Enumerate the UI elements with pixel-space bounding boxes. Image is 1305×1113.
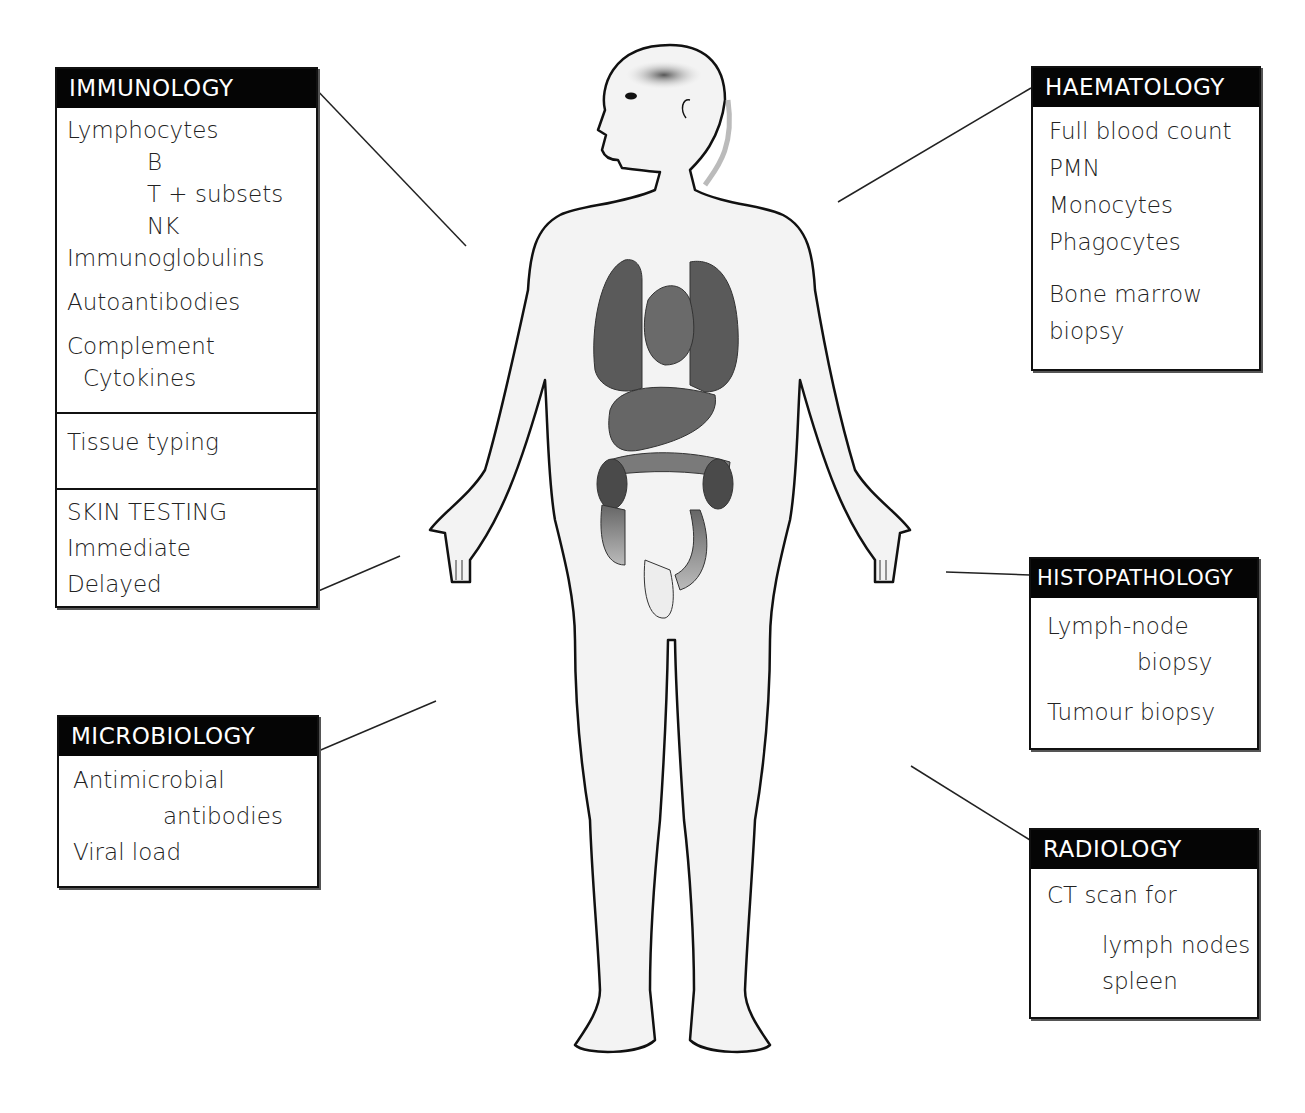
test-item: NK	[67, 210, 306, 242]
test-item: biopsy	[1047, 646, 1243, 678]
test-item: T + subsets	[67, 178, 306, 210]
test-item: Phagocytes	[1049, 226, 1245, 258]
haematology-tests: Full blood count PMN Monocytes Phagocyte…	[1033, 107, 1259, 369]
test-item: SKIN TESTING	[67, 496, 306, 528]
test-item: Viral load	[73, 836, 303, 868]
test-item: Antimicrobial	[73, 764, 303, 796]
test-item: Lymphocytes	[67, 114, 306, 146]
right-kidney	[703, 459, 733, 509]
test-item: Lymph-node	[1047, 610, 1243, 642]
microbiology-box: MICROBIOLOGY Antimicrobial antibodies Vi…	[57, 715, 319, 888]
test-item: Cytokines	[67, 362, 306, 394]
test-item: PMN	[1049, 152, 1245, 184]
test-item: antibodies	[73, 800, 303, 832]
skin-testing-section: SKIN TESTING Immediate Delayed	[57, 488, 316, 606]
histopathology-tests: Lymph-node biopsy Tumour biopsy	[1031, 598, 1257, 748]
immunology-box: IMMUNOLOGY Lymphocytes B T + subsets NK …	[55, 67, 318, 608]
radiology-box: RADIOLOGY CT scan for lymph nodes spleen	[1029, 828, 1259, 1019]
heart	[644, 286, 693, 365]
immunology-header: IMMUNOLOGY	[57, 69, 316, 108]
test-item: Bone marrow	[1049, 278, 1245, 310]
test-item: spleen	[1047, 965, 1243, 997]
test-item: B	[67, 146, 306, 178]
test-item: Complement	[67, 330, 306, 362]
test-item: Tissue typing	[67, 426, 306, 458]
test-item: Immediate	[67, 532, 306, 564]
test-item: CT scan for	[1047, 879, 1243, 911]
tissue-typing-section: Tissue typing	[57, 412, 316, 488]
test-item: Delayed	[67, 568, 306, 600]
histopathology-box: HISTOPATHOLOGY Lymph-node biopsy Tumour …	[1029, 557, 1259, 750]
test-item: Autoantibodies	[67, 286, 306, 318]
haematology-box: HAEMATOLOGY Full blood count PMN Monocyt…	[1031, 66, 1261, 371]
test-item: Monocytes	[1049, 189, 1245, 221]
microbiology-tests: Antimicrobial antibodies Viral load	[59, 756, 317, 886]
histopathology-header: HISTOPATHOLOGY	[1031, 559, 1257, 598]
microbiology-header: MICROBIOLOGY	[59, 717, 317, 756]
test-item: Immunoglobulins	[67, 242, 306, 274]
body-outline	[430, 45, 910, 1052]
brain-highlight	[626, 61, 702, 89]
test-item: biopsy	[1049, 315, 1245, 347]
test-item: Tumour biopsy	[1047, 696, 1243, 728]
radiology-header: RADIOLOGY	[1031, 830, 1257, 869]
left-kidney	[597, 459, 627, 509]
radiology-tests: CT scan for lymph nodes spleen	[1031, 869, 1257, 1017]
test-item: lymph nodes	[1047, 929, 1243, 961]
eye	[625, 93, 637, 100]
haematology-header: HAEMATOLOGY	[1033, 68, 1259, 107]
immunology-tests-section: Lymphocytes B T + subsets NK Immunoglobu…	[57, 108, 316, 412]
test-item: Full blood count	[1049, 115, 1245, 147]
